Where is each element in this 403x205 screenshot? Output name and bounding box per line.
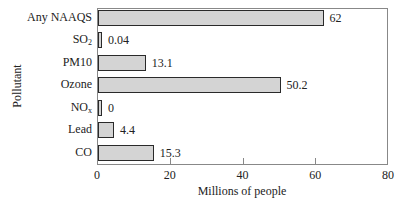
bar-value-label: 0.04 (108, 32, 129, 48)
x-tick-label: 0 (94, 168, 100, 183)
bar (98, 77, 281, 93)
bar (98, 145, 154, 161)
horizontal-bar-chart: Pollutant Any NAAQSSO2PM10OzoneNOxLeadCO… (0, 0, 403, 205)
bar (98, 55, 146, 71)
x-tick-label: 60 (309, 168, 321, 183)
y-axis-title: Pollutant (10, 64, 25, 107)
bar (98, 32, 102, 48)
x-tick-label: 20 (164, 168, 176, 183)
bar-value-label: 0 (108, 100, 114, 116)
x-tick-label: 80 (382, 168, 394, 183)
bar-row: 4.4 (98, 122, 389, 138)
bar (98, 122, 114, 138)
bar-row: 62 (98, 10, 389, 26)
category-label: CO (75, 144, 92, 160)
x-axis-title: Millions of people (198, 184, 287, 199)
category-label: SO2 (73, 31, 92, 47)
bar-value-label: 62 (330, 10, 342, 26)
bar-row: 13.1 (98, 55, 389, 71)
plot-area: 620.0413.150.204.415.3 (97, 8, 388, 165)
category-label: Any NAAQS (27, 9, 92, 25)
bar-row: 0 (98, 100, 389, 116)
category-label: NOx (71, 99, 92, 115)
bar (98, 10, 324, 26)
x-tick-mark (170, 158, 171, 165)
bar-row: 50.2 (98, 77, 389, 93)
category-label: PM10 (63, 54, 92, 70)
bar-row: 15.3 (98, 145, 389, 161)
bar-row: 0.04 (98, 32, 389, 48)
category-label: Ozone (61, 76, 92, 92)
category-label: Lead (68, 121, 92, 137)
x-tick-mark (315, 158, 316, 165)
x-tick-label: 40 (237, 168, 249, 183)
bar-value-label: 13.1 (152, 55, 173, 71)
bar-value-label: 4.4 (120, 122, 135, 138)
bar-value-label: 50.2 (287, 77, 308, 93)
x-tick-mark (243, 158, 244, 165)
bar (98, 100, 102, 116)
